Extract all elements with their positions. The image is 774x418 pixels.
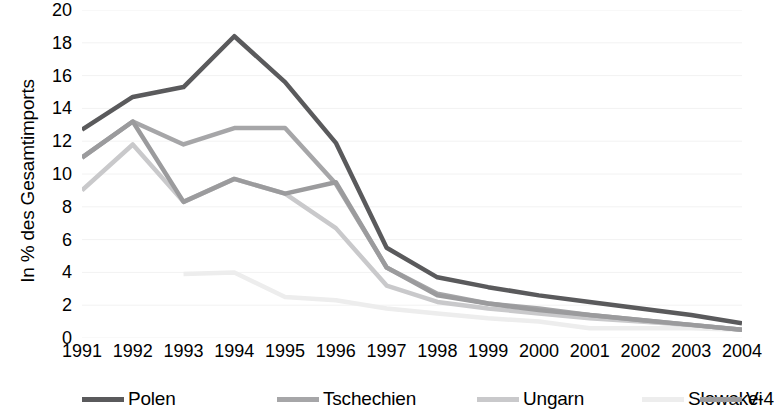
legend-item-tschechien[interactable]: Tschechien: [277, 386, 416, 412]
y-axis-tick-16: 16: [36, 65, 72, 86]
x-axis-tick-2003: 2003: [671, 341, 711, 362]
legend-label: Ungarn: [523, 388, 584, 410]
plot-area: [82, 10, 742, 338]
y-axis-tick-4: 4: [36, 262, 72, 283]
x-axis-tick-labels: 1991199219931994199519961997199819992000…: [82, 341, 742, 371]
x-axis-tick-1992: 1992: [113, 341, 153, 362]
legend-label: V-4: [746, 388, 774, 410]
legend-label: Polen: [128, 388, 176, 410]
y-axis-tick-labels: 02468101214161820: [36, 0, 72, 345]
legend-swatch-tschechien: [277, 397, 319, 402]
legend-item-polen[interactable]: Polen: [82, 386, 176, 412]
y-axis-tick-8: 8: [36, 196, 72, 217]
x-axis-tick-2002: 2002: [620, 341, 660, 362]
legend-swatch-polen: [82, 397, 124, 402]
x-axis-tick-1994: 1994: [214, 341, 254, 362]
legend-item-v-4[interactable]: V-4: [700, 386, 774, 412]
legend-swatch-v-4: [700, 397, 742, 402]
y-axis-tick-14: 14: [36, 98, 72, 119]
y-axis-tick-10: 10: [36, 164, 72, 185]
x-axis-tick-2001: 2001: [570, 341, 610, 362]
y-axis-tick-18: 18: [36, 32, 72, 53]
x-axis-tick-1993: 1993: [164, 341, 204, 362]
legend-swatch-ungarn: [477, 397, 519, 402]
x-axis-tick-2000: 2000: [519, 341, 559, 362]
x-axis-tick-1999: 1999: [468, 341, 508, 362]
y-axis-tick-12: 12: [36, 131, 72, 152]
y-axis-tick-6: 6: [36, 229, 72, 250]
x-axis-tick-1997: 1997: [367, 341, 407, 362]
series-line-tschechien: [82, 122, 742, 330]
x-axis-tick-1998: 1998: [417, 341, 457, 362]
series-line-ungarn: [82, 144, 742, 329]
x-axis-tick-1996: 1996: [316, 341, 356, 362]
series-line-v-4: [82, 122, 742, 330]
y-axis-tick-2: 2: [36, 295, 72, 316]
chart-legend: PolenTschechienUngarnSlowakeiV-4: [82, 386, 746, 416]
legend-swatch-slowakei: [642, 397, 684, 402]
legend-item-ungarn[interactable]: Ungarn: [477, 386, 584, 412]
y-axis-tick-20: 20: [36, 0, 72, 21]
legend-label: Tschechien: [323, 388, 416, 410]
x-axis-tick-1991: 1991: [62, 341, 102, 362]
x-axis-tick-2004: 2004: [722, 341, 762, 362]
x-axis-tick-1995: 1995: [265, 341, 305, 362]
plot-svg: [82, 10, 742, 338]
